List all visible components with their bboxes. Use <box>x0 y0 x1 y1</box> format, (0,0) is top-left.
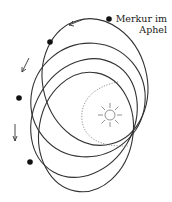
aphelion-label: Merkur im Aphel <box>112 13 167 35</box>
mercury-positions <box>16 16 112 165</box>
label-line-1: Merkur im <box>112 13 167 24</box>
sun-icon <box>98 103 122 127</box>
direction-arrows <box>13 19 84 141</box>
label-line-2: Aphel <box>112 24 167 35</box>
orbit-2 <box>8 20 169 180</box>
orbit-3 <box>10 39 159 196</box>
